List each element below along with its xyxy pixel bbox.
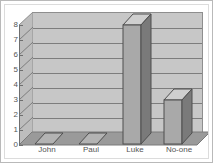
y-axis-label-7: 7 bbox=[6, 36, 18, 44]
bar-no-one[interactable] bbox=[162, 87, 194, 147]
y-tick-5 bbox=[19, 70, 23, 71]
y-axis-label-1: 1 bbox=[6, 126, 18, 134]
y-axis-label-2: 2 bbox=[6, 111, 18, 119]
y-tick-8 bbox=[19, 25, 23, 26]
y-axis-label-4: 4 bbox=[6, 81, 18, 89]
y-axis-label-6: 6 bbox=[6, 51, 18, 59]
gridline-6 bbox=[32, 43, 202, 44]
x-axis-label-no-one: No-one bbox=[157, 145, 201, 155]
chart-plot-container: 8 7 6 5 4 3 2 1 0 bbox=[4, 4, 209, 159]
y-tick-4 bbox=[19, 85, 23, 86]
y-tick-2 bbox=[19, 115, 23, 116]
y-axis-labels: 8 7 6 5 4 3 2 1 0 bbox=[5, 5, 18, 159]
y-tick-7 bbox=[19, 40, 23, 41]
chart-3d-stage: 8 7 6 5 4 3 2 1 0 bbox=[5, 5, 209, 159]
y-axis-label-5: 5 bbox=[6, 66, 18, 74]
y-tick-3 bbox=[19, 100, 23, 101]
x-axis-label-luke: Luke bbox=[115, 145, 155, 155]
gridline-4 bbox=[32, 73, 202, 74]
gridline-5 bbox=[32, 58, 202, 59]
y-axis-label-8: 8 bbox=[6, 21, 18, 29]
chart-frame: 8 7 6 5 4 3 2 1 0 bbox=[0, 0, 213, 163]
y-tick-1 bbox=[19, 130, 23, 131]
x-axis-labels: John Paul Luke No-one bbox=[5, 145, 209, 159]
y-axis-label-3: 3 bbox=[6, 96, 18, 104]
bar-luke[interactable] bbox=[121, 12, 153, 147]
gridline-7 bbox=[32, 28, 202, 29]
y-tick-6 bbox=[19, 55, 23, 56]
x-axis-label-john: John bbox=[27, 145, 67, 155]
x-axis-label-paul: Paul bbox=[71, 145, 111, 155]
